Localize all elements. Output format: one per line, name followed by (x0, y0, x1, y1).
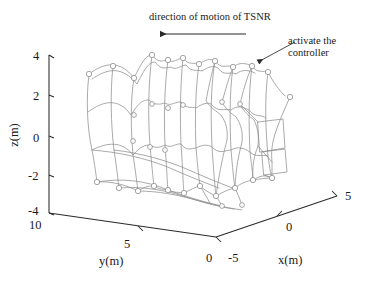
node-mid-8 (220, 100, 225, 105)
z-tick-m2 (49, 175, 54, 177)
node-top-9 (230, 64, 235, 69)
mesh-box-right-2 (262, 149, 287, 175)
z-tick-4 (49, 55, 54, 58)
y-tick-label-5: 5 (124, 238, 130, 252)
mesh-curve-mid-lower (92, 144, 268, 156)
rib-4 (149, 55, 154, 186)
z-tick-label-4: 4 (33, 50, 39, 64)
axis-x (216, 191, 337, 237)
mesh-outer-right-link (268, 72, 285, 96)
rib-11 (266, 72, 272, 178)
node-bottom-1 (94, 179, 99, 184)
activate-controller-annotation: activate the controller (288, 35, 336, 58)
node-bottom-9 (232, 185, 237, 190)
node-top-7 (196, 61, 201, 66)
node-lowmid-5 (163, 148, 168, 153)
node-bottom-2 (116, 185, 121, 190)
x-tick-label-0: 0 (286, 221, 292, 235)
mesh-outer-right-branch (272, 97, 290, 178)
y-tick-label-10: 10 (29, 219, 42, 233)
node-tail-1 (220, 204, 225, 209)
activate-line-2: controller (288, 47, 336, 59)
z-axis-title: z(m) (8, 115, 22, 155)
x-axis-line (216, 196, 337, 237)
mesh-tether-lower-3 (138, 191, 242, 210)
node-top-5 (165, 57, 170, 62)
node-mid-9 (238, 102, 243, 107)
y-axis-title: y(m) (99, 255, 123, 269)
rib-10 (249, 66, 253, 180)
rib-8 (211, 61, 216, 196)
node-bottom-5 (165, 187, 170, 192)
node-bottom-6 (181, 190, 186, 195)
rib-3 (131, 78, 138, 191)
node-top-1 (86, 71, 91, 76)
node-lowmid-3 (131, 139, 136, 144)
node-mid-5 (166, 106, 171, 111)
z-tick-label-2: 2 (33, 90, 39, 104)
node-bottom-7 (197, 183, 202, 188)
node-bottom-8 (213, 193, 218, 198)
rib-1 (87, 74, 97, 182)
node-bottom-10 (250, 177, 255, 182)
axis-z (49, 55, 54, 215)
figure-3d-tsnr-plot: direction of motion of TSNR activate the… (0, 0, 365, 287)
x-tick-label-5: 5 (345, 190, 351, 204)
node-top-3 (131, 75, 136, 80)
x-tick-label-minus5: -5 (228, 252, 238, 266)
z-tick-label-0: 0 (33, 132, 39, 146)
mesh-irregular-3 (206, 61, 227, 196)
z-tick-label-minus4: -4 (28, 205, 38, 219)
z-tick-label-minus2: -2 (28, 170, 38, 184)
x-tick-5 (332, 191, 337, 196)
activate-line-1: activate the (288, 35, 336, 47)
mesh-box-right-1 (258, 119, 285, 152)
node-mid-4 (150, 102, 155, 107)
node-outer-right (287, 94, 292, 99)
node-bottom-11 (269, 175, 274, 180)
node-bottom-4 (151, 183, 156, 188)
node-top-10 (249, 63, 254, 68)
rib-2 (111, 66, 119, 188)
mesh-irregular-2 (222, 67, 242, 188)
x-axis-title: x(m) (278, 254, 302, 268)
node-top-8 (212, 58, 217, 63)
node-bottom-3 (135, 188, 140, 193)
net-node-markers (86, 52, 292, 208)
rib-5 (164, 60, 168, 190)
node-tail-2 (240, 203, 245, 208)
rib-9 (230, 67, 235, 188)
node-mid-3 (132, 113, 137, 118)
node-mid-6 (181, 103, 186, 108)
node-top-4 (149, 52, 154, 57)
plot-title: direction of motion of TSNR (149, 11, 271, 23)
z-tick-0 (49, 136, 54, 138)
node-top-11 (265, 69, 270, 74)
y-axis-line (49, 213, 216, 237)
node-top-6 (180, 55, 185, 60)
axis-y (49, 213, 221, 242)
node-top-2 (110, 63, 115, 68)
y-tick-label-0: 0 (206, 252, 212, 266)
z-tick-2 (49, 95, 54, 97)
node-lowmid-4 (148, 145, 153, 150)
rib-7 (195, 64, 200, 186)
mesh-box-link-2 (258, 146, 272, 162)
y-tick-0 (216, 237, 221, 242)
